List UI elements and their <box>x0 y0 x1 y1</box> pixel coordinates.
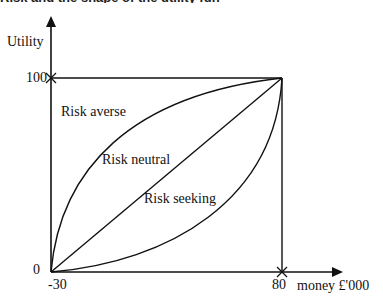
risk-neutral-label: Risk neutral <box>102 152 170 168</box>
y-tick-0: 0 <box>33 262 40 278</box>
x-tick-80: 80 <box>272 277 286 293</box>
x-axis-arrow-icon <box>332 267 343 277</box>
risk-seeking-label: Risk seeking <box>144 191 216 207</box>
x-tick-neg30: -30 <box>48 277 67 293</box>
y-tick-100: 100 <box>26 70 47 86</box>
utility-diagram <box>0 0 383 303</box>
risk-averse-label: Risk averse <box>61 104 126 120</box>
y-axis-arrow-icon <box>46 16 56 27</box>
x-axis-label: money £'000 <box>297 278 369 294</box>
y-axis-label: Utility <box>7 34 44 50</box>
